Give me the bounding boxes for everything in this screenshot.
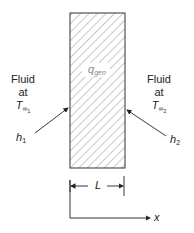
right-fluid-label: Fluid at T∞2 xyxy=(142,73,176,118)
qgen-label: qgen xyxy=(82,63,112,79)
slab-wall xyxy=(70,13,125,168)
h2-label: h2 xyxy=(170,133,180,149)
x-axis-label: x xyxy=(154,211,160,224)
thickness-label: L xyxy=(92,179,104,192)
left-fluid-label: Fluid at T∞1 xyxy=(6,73,40,118)
h1-label: h1 xyxy=(16,131,26,147)
